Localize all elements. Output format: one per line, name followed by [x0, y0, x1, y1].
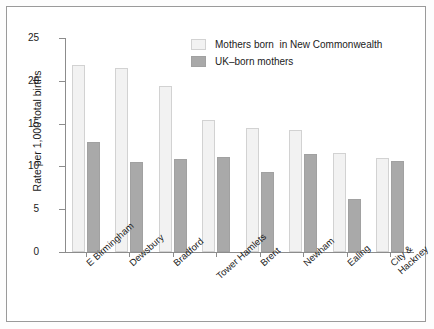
y-tick-label: 0 [0, 247, 39, 257]
y-tick-mark [59, 38, 65, 39]
y-tick-mark [59, 124, 65, 125]
legend-item: UK–born mothers [191, 54, 382, 69]
bar-new-commonwealth [333, 153, 346, 252]
y-tick-mark [59, 166, 65, 167]
y-tick-label: 15 [0, 119, 39, 129]
legend-swatch-uk-born [191, 56, 206, 67]
legend-label: UK–born mothers [215, 56, 293, 67]
bar-uk-born [87, 142, 100, 252]
bar-uk-born [304, 154, 317, 252]
bar-uk-born [217, 157, 230, 252]
bar-uk-born [130, 162, 143, 252]
bar-uk-born [348, 199, 361, 252]
legend-swatch-new-commonwealth [191, 39, 206, 50]
y-tick-mark [59, 81, 65, 82]
legend-item: Mothers born in New Commonwealth [191, 37, 382, 52]
y-tick-label: 20 [0, 76, 39, 86]
legend-label: Mothers born in New Commonwealth [215, 39, 382, 50]
bar-new-commonwealth [202, 120, 215, 252]
bar-uk-born [391, 161, 404, 252]
bar-new-commonwealth [289, 130, 302, 252]
legend: Mothers born in New CommonwealthUK–born … [191, 37, 382, 71]
y-tick-mark [59, 252, 65, 253]
bar-new-commonwealth [376, 158, 389, 252]
figure-border: Rate per 1,000 total births 0510152025 E… [6, 6, 426, 322]
bar-new-commonwealth [72, 65, 85, 252]
figure: Rate per 1,000 total births 0510152025 E… [0, 0, 434, 329]
y-tick-label: 10 [0, 161, 39, 171]
x-tick-mark [216, 253, 217, 257]
y-tick-mark [59, 209, 65, 210]
bar-uk-born [174, 159, 187, 252]
y-tick-label: 25 [0, 33, 39, 43]
bar-new-commonwealth [159, 86, 172, 252]
y-tick-label: 5 [0, 204, 39, 214]
